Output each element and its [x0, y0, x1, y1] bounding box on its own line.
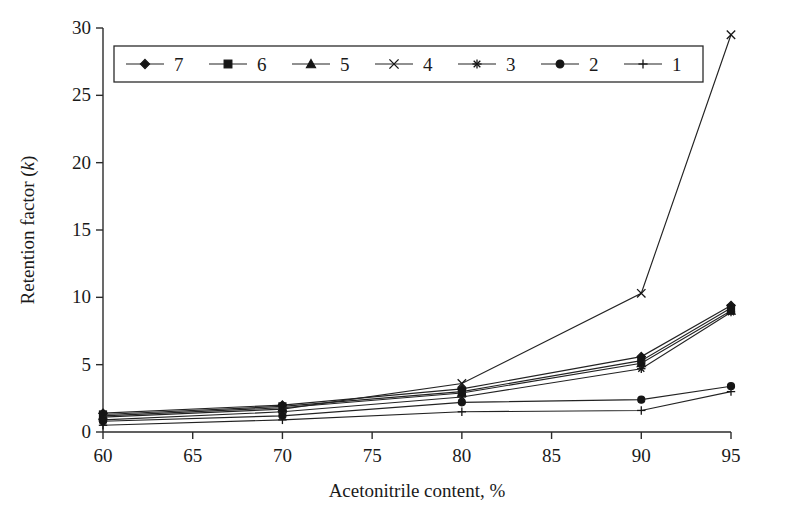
y-tick-label: 30 [72, 17, 91, 38]
x-axis-title: Acetonitrile content, % [329, 480, 506, 501]
y-tick-label: 25 [72, 84, 91, 105]
marker-asterisk-3 [727, 308, 735, 316]
legend-label-7: 7 [174, 54, 184, 75]
y-axis-title: Retention factor (k) [17, 156, 39, 305]
chart-figure: 051015202530 6065707580859095 Acetonitri… [0, 0, 787, 521]
x-tick-label: 75 [363, 445, 382, 466]
chart-legend: 7654321 [114, 46, 703, 82]
retention-factor-line-chart: 051015202530 6065707580859095 Acetonitri… [0, 0, 787, 521]
marker-circle-legend-2 [556, 60, 564, 68]
y-tick-label: 0 [82, 421, 92, 442]
y-tick-label: 10 [72, 286, 91, 307]
x-tick-label: 70 [273, 445, 292, 466]
legend-label-5: 5 [340, 54, 350, 75]
y-tick-label: 5 [82, 354, 92, 375]
y-tick-label: 20 [72, 152, 91, 173]
x-tick-label: 90 [632, 445, 651, 466]
marker-circle-2 [638, 396, 645, 403]
marker-circle-2 [458, 399, 465, 406]
y-tick-label: 15 [72, 219, 91, 240]
x-tick-label: 60 [94, 445, 113, 466]
x-tick-label: 85 [542, 445, 561, 466]
legend-label-3: 3 [506, 54, 516, 75]
marker-asterisk-legend-3 [472, 59, 481, 68]
x-tick-label: 80 [452, 445, 471, 466]
legend-label-2: 2 [589, 54, 599, 75]
x-tick-label: 95 [722, 445, 741, 466]
x-tick-label: 65 [183, 445, 202, 466]
legend-label-6: 6 [257, 54, 267, 75]
legend-label-4: 4 [423, 54, 433, 75]
legend-label-1: 1 [672, 54, 682, 75]
marker-asterisk-3 [637, 365, 645, 373]
marker-square-legend-6 [224, 60, 232, 68]
